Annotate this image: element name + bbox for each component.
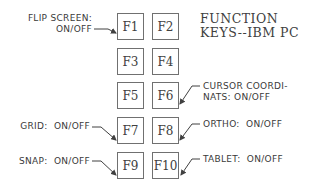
leader-f7 bbox=[92, 127, 116, 140]
diagram-title: FUNCTION KEYS--IBM PC bbox=[200, 12, 299, 40]
annotation-f10: TABLET: ON/OFF bbox=[203, 154, 283, 165]
key-f9: F9 bbox=[117, 152, 144, 179]
key-f5: F5 bbox=[117, 82, 144, 109]
key-f3: F3 bbox=[117, 48, 144, 75]
annotation-f8: ORTHO: ON/OFF bbox=[203, 119, 282, 130]
annotation-f9: SNAP: ON/OFF bbox=[2, 156, 90, 167]
key-f7: F7 bbox=[117, 117, 144, 144]
key-f6: F6 bbox=[152, 82, 179, 109]
key-f2: F2 bbox=[152, 13, 179, 40]
annotation-f6: CURSOR COORDI- NATS: ON/OFF bbox=[203, 81, 288, 103]
key-f8: F8 bbox=[152, 117, 179, 144]
title-line-2: KEYS--IBM PC bbox=[200, 25, 299, 40]
key-f4: F4 bbox=[152, 48, 179, 75]
annotation-f1-line-1: FLIP SCREEN: bbox=[28, 13, 92, 23]
annotation-f6-line-2: NATS: ON/OFF bbox=[203, 92, 270, 102]
key-f1: F1 bbox=[117, 13, 144, 40]
annotation-f7: GRID: ON/OFF bbox=[2, 121, 90, 132]
leader-f10 bbox=[181, 159, 200, 175]
annotation-f1-line-2: ON/OFF bbox=[56, 24, 92, 34]
annotation-f1: FLIP SCREEN: ON/OFF bbox=[10, 13, 92, 35]
leader-f9 bbox=[92, 161, 116, 175]
title-line-1: FUNCTION bbox=[200, 11, 278, 26]
key-f10: F10 bbox=[152, 152, 179, 179]
leader-f1 bbox=[94, 29, 116, 33]
leader-f6 bbox=[180, 86, 200, 104]
annotation-f6-line-1: CURSOR COORDI- bbox=[203, 81, 288, 91]
leader-f8 bbox=[180, 124, 200, 140]
